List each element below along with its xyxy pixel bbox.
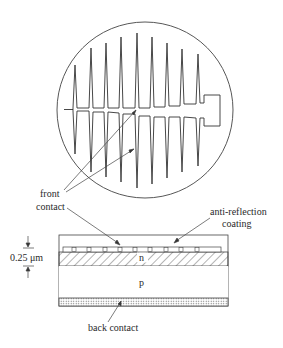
wafer-outline [57,22,233,198]
anti-reflection-pointer [174,218,210,243]
thickness-dimension-label: 0.25 μm [10,252,43,263]
n-layer-label: n [139,252,144,263]
cross-section: n p [59,235,228,306]
anti-reflection-label-line1: anti-reflection [210,206,267,217]
front-contact-xsec-pointer [67,208,120,245]
lower-fingers [73,111,200,188]
front-contact-grid [64,33,220,188]
back-contact-layer [59,298,228,306]
front-contact-label-line1: front [40,188,60,199]
front-contact-label-line2: contact [36,201,65,212]
p-layer-label: p [139,277,144,288]
wafer-top-view [57,22,233,198]
anti-reflection-label-line2: coating [222,218,251,229]
back-contact-label: back contact [88,322,138,333]
solar-cell-diagram: front contact anti-reflection coating [0,0,283,348]
front-contact-blocks [72,248,199,252]
